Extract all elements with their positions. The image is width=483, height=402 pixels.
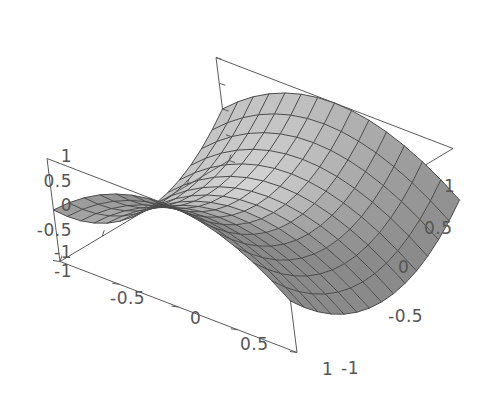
- surface-plot-figure: 1 0.5 0 -0.5 -1 -1 -0.5 0 0.5 1 -1 -0.5 …: [0, 0, 483, 402]
- x-tick-label--1: -1: [54, 261, 72, 281]
- z-tick-label-0: 0: [61, 195, 72, 215]
- x-tick-label-0.5: 0.5: [240, 334, 269, 354]
- y-tick-label--0.5: -0.5: [388, 306, 423, 326]
- y-tick-label--1: -1: [341, 358, 359, 378]
- z-tick-label--1: -1: [54, 242, 72, 262]
- x-tick-label--0.5: -0.5: [110, 288, 145, 308]
- surface-mesh: [54, 93, 460, 314]
- y-tick-label-0: 0: [398, 257, 409, 277]
- surface-plot-canvas: 1 0.5 0 -0.5 -1 -1 -0.5 0 0.5 1 -1 -0.5 …: [0, 0, 483, 402]
- x-tick-label-0: 0: [190, 308, 201, 328]
- y-tick-label-0.5: 0.5: [424, 218, 453, 238]
- z-tick-label--0.5: -0.5: [37, 220, 72, 240]
- z-tick-label-1: 1: [61, 146, 72, 166]
- x-tick-label-1: 1: [322, 359, 333, 379]
- z-tick-label-0.5: 0.5: [43, 171, 72, 191]
- y-tick-label-1: 1: [444, 176, 455, 196]
